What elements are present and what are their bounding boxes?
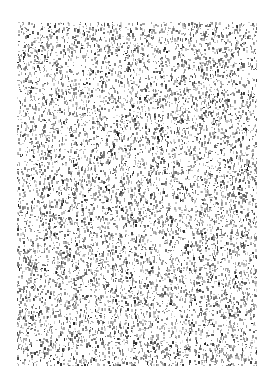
page-description: Scanned document page with illegible den… [0, 0, 1, 1]
noise-texture-canvas [17, 22, 257, 366]
illegible-scanned-text-block [17, 22, 257, 366]
document-page: Scanned document page with illegible den… [0, 0, 271, 388]
